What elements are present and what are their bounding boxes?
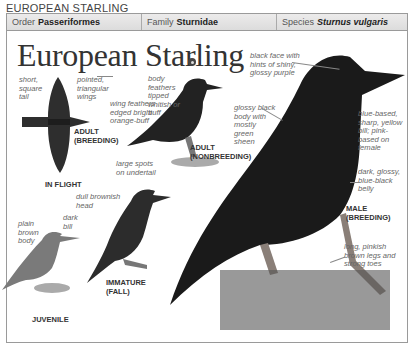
- note-dull-brownish-head: dull brownish head: [76, 193, 126, 210]
- caption-in-flight: IN FLIGHT: [45, 180, 82, 189]
- note-belly: dark, glossy, blue-black belly: [358, 168, 402, 194]
- tag-immature-fall: IMMATURE (FALL): [106, 278, 146, 296]
- tag-male-breeding: MALE (BREEDING): [346, 204, 391, 222]
- order-label: Order: [12, 17, 35, 27]
- note-pointed-wings: pointed, triangular wings: [77, 76, 113, 102]
- order-value: Passeriformes: [38, 17, 100, 27]
- tag-adult-breeding: ADULT (BREEDING): [74, 127, 119, 145]
- note-black-face: black face with hints of shiny, glossy p…: [250, 52, 306, 78]
- note-plain-brown-body: plain brown body: [18, 220, 42, 246]
- family-value: Sturnidae: [177, 17, 219, 27]
- taxonomy-bar: OrderPasseriformes FamilySturnidae Speci…: [6, 13, 408, 31]
- caption-juvenile: JUVENILE: [32, 315, 69, 324]
- note-short-square-tail: short, square tail: [19, 76, 49, 102]
- species-value: Sturnus vulgaris: [317, 17, 388, 27]
- family-cell: FamilySturnidae: [142, 14, 277, 30]
- note-glossy-black-body: glossy black body with mostly green shee…: [234, 104, 276, 147]
- species-cell: SpeciesSturnus vulgaris: [277, 14, 407, 30]
- order-cell: OrderPasseriformes: [7, 14, 142, 30]
- bird-juvenile-illustration: [2, 228, 84, 298]
- note-bill: blue-based, sharp, yellow bill; pink-bas…: [358, 110, 406, 153]
- note-dark-bill: dark bill: [63, 214, 81, 231]
- note-legs: long, pinkish brown legs and strong toes: [344, 243, 398, 269]
- species-label: Species: [282, 17, 314, 27]
- leader-line: [350, 182, 360, 183]
- family-label: Family: [147, 17, 174, 27]
- leader-line: [97, 76, 113, 77]
